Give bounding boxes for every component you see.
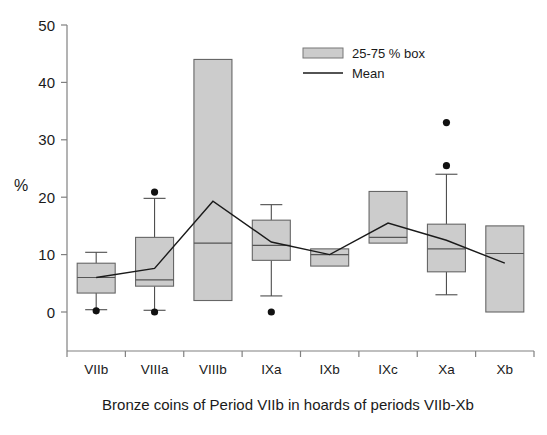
legend-label-25-75-box: 25-75 % box	[352, 46, 425, 61]
legend-label-mean: Mean	[352, 66, 385, 81]
x-tick-label-xa: Xa	[438, 362, 455, 377]
x-tick-label-xb: Xb	[497, 362, 514, 377]
x-tick-label-viib: VIIb	[84, 362, 108, 377]
y-axis-label: %	[14, 177, 28, 194]
boxplot-canvas: 01020304050 VIIbVIIIaVIIIbIXaIXbIXcXaXb …	[0, 0, 547, 435]
box-iqr	[136, 237, 174, 286]
box-iqr	[369, 191, 407, 243]
boxplot-figure: 01020304050 VIIbVIIIaVIIIbIXaIXbIXcXaXb …	[0, 0, 547, 435]
outlier-point	[151, 188, 158, 195]
box-iqr	[194, 59, 232, 300]
box-iqr	[427, 224, 465, 272]
y-tick-label: 40	[38, 74, 55, 91]
box-plot-xb	[486, 226, 524, 312]
outlier-point	[151, 308, 158, 315]
y-tick-label: 0	[47, 304, 55, 321]
y-tick-label: 20	[38, 189, 55, 206]
box-iqr	[77, 263, 115, 293]
y-tick-label: 50	[38, 17, 55, 34]
y-tick-label: 30	[38, 131, 55, 148]
outlier-point	[93, 307, 100, 314]
box-plot-ixc	[369, 191, 407, 243]
outlier-point	[268, 308, 275, 315]
x-tick-label-viiia: VIIIa	[141, 362, 169, 377]
x-tick-label-viiib: VIIIb	[199, 362, 227, 377]
legend-swatch-box	[303, 48, 343, 58]
chart-caption: Bronze coins of Period VIIb in hoards of…	[102, 396, 474, 413]
outlier-point	[443, 162, 450, 169]
x-tick-label-ixc: IXc	[378, 362, 398, 377]
box-iqr	[486, 226, 524, 312]
outlier-point	[443, 119, 450, 126]
box-plot-viiib	[194, 59, 232, 300]
y-tick-label: 10	[38, 246, 55, 263]
x-tick-label-ixb: IXb	[320, 362, 340, 377]
x-tick-label-ixa: IXa	[261, 362, 282, 377]
box-iqr	[252, 220, 290, 260]
